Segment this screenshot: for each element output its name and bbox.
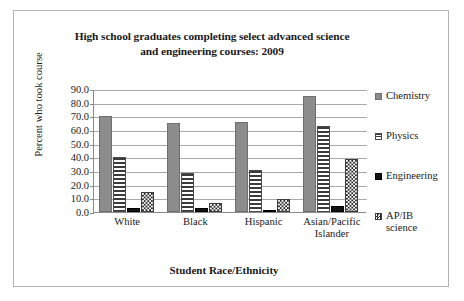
bar-group bbox=[299, 89, 367, 212]
y-axis-title: Percent who took course bbox=[33, 45, 44, 165]
chart-title-line2-text: and engineering courses: 2009 bbox=[32, 44, 392, 59]
chart-title-line1-text: High school graduates completing select … bbox=[75, 30, 350, 42]
plot-area bbox=[93, 90, 366, 213]
y-axis-tick-label: 40.0 bbox=[55, 153, 89, 164]
legend-swatch-chemistry-icon bbox=[375, 93, 382, 100]
figure-frame: High school graduates completing select … bbox=[13, 10, 449, 287]
y-axis-tick bbox=[90, 213, 94, 214]
bar-chemistry-0 bbox=[99, 116, 112, 212]
y-axis-tick-label: 60.0 bbox=[55, 126, 89, 137]
bar-apib-0 bbox=[141, 192, 154, 213]
legend-item-chemistry[interactable]: Chemistry bbox=[375, 90, 430, 102]
legend-swatch-apib-icon bbox=[375, 213, 382, 220]
y-axis-tick-label: 90.0 bbox=[55, 85, 89, 96]
x-axis-category-line: Hispanic bbox=[245, 216, 283, 227]
x-axis-title: Student Race/Ethnicity bbox=[74, 264, 374, 276]
bar-engineering-3 bbox=[331, 206, 344, 212]
y-axis-tick-label: 50.0 bbox=[55, 140, 89, 151]
x-axis-category-line: Black bbox=[183, 216, 208, 227]
bar-apib-1 bbox=[209, 203, 222, 212]
bar-group bbox=[94, 89, 162, 212]
bar-physics-1 bbox=[181, 173, 194, 212]
y-axis-tick-label: 80.0 bbox=[55, 99, 89, 110]
legend-label: Chemistry bbox=[386, 90, 430, 102]
x-axis-category-line: White bbox=[114, 216, 140, 227]
chart-title: High school graduates completing select … bbox=[32, 29, 392, 59]
bar-chemistry-2 bbox=[235, 122, 248, 212]
y-axis-tick-label: 10.0 bbox=[55, 194, 89, 205]
x-axis-category-line: Asian/Pacific bbox=[303, 216, 360, 227]
bar-apib-3 bbox=[345, 159, 358, 212]
legend-item-physics[interactable]: Physics bbox=[375, 130, 418, 142]
bar-engineering-0 bbox=[127, 208, 140, 212]
x-axis-category-labels: WhiteBlackHispanicAsian/PacificIslander bbox=[93, 216, 366, 250]
legend-swatch-engineering-icon bbox=[375, 173, 382, 180]
bar-physics-2 bbox=[249, 170, 262, 212]
y-axis-tick-label: 0.0 bbox=[55, 208, 89, 219]
bar-physics-0 bbox=[113, 157, 126, 212]
legend-item-engineering[interactable]: Engineering bbox=[375, 170, 438, 182]
bar-group bbox=[231, 89, 299, 212]
bar-engineering-1 bbox=[195, 208, 208, 212]
legend-item-apib[interactable]: AP/IB science bbox=[375, 210, 417, 234]
x-axis-category-3: Asian/PacificIslander bbox=[292, 216, 372, 240]
y-axis-tick-labels: 90.080.070.060.050.040.030.020.010.00.0 bbox=[55, 90, 89, 213]
bar-chemistry-3 bbox=[303, 96, 316, 212]
legend-label: AP/IB science bbox=[386, 210, 417, 234]
y-axis-tick-label: 30.0 bbox=[55, 167, 89, 178]
x-axis-category-line: Islander bbox=[315, 228, 349, 239]
legend-swatch-physics-icon bbox=[375, 133, 382, 140]
bar-engineering-2 bbox=[263, 210, 276, 212]
y-axis-tick-label: 70.0 bbox=[55, 112, 89, 123]
legend-label: Physics bbox=[386, 130, 418, 142]
legend-label: Engineering bbox=[386, 170, 438, 182]
bar-physics-3 bbox=[317, 126, 330, 212]
y-axis-tick-label: 20.0 bbox=[55, 181, 89, 192]
bar-chemistry-1 bbox=[167, 123, 180, 212]
bar-group bbox=[162, 89, 230, 212]
bar-apib-2 bbox=[277, 199, 290, 212]
